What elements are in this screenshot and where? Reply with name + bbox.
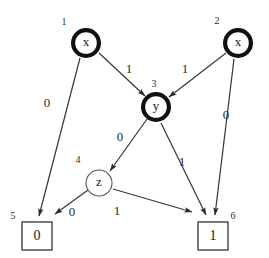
- edge-label: 1: [179, 154, 186, 169]
- node-4-z[interactable]: z4: [76, 154, 113, 196]
- terminal-6-1[interactable]: 16: [198, 210, 236, 250]
- node-3-y[interactable]: y3: [143, 78, 169, 120]
- edge-n2-t6: [215, 59, 234, 215]
- node-2-x[interactable]: x2: [215, 15, 251, 56]
- node-variable-label: y: [153, 98, 160, 113]
- edge-n4-t6: [113, 189, 192, 212]
- node-1-x[interactable]: x1: [62, 16, 99, 56]
- edges-layer: [39, 53, 234, 216]
- edge-label: 0: [69, 204, 76, 219]
- edge-n3-n4: [110, 119, 147, 171]
- nodes-layer: x1x2y3z4: [62, 15, 251, 196]
- edge-n2-n3: [169, 53, 226, 97]
- node-index-label: 3: [152, 78, 157, 89]
- terminal-5-0[interactable]: 05: [11, 210, 53, 250]
- decision-diagram: 01100101 x1x2y3z4 0516: [0, 0, 269, 258]
- terminal-index-label: 5: [11, 210, 16, 221]
- terminals-layer: 0516: [11, 210, 236, 250]
- node-variable-label: z: [96, 174, 102, 189]
- node-variable-label: x: [83, 34, 90, 49]
- edge-label: 1: [114, 203, 121, 218]
- diagram-canvas: 01100101 x1x2y3z4 0516: [0, 0, 269, 258]
- node-index-label: 2: [215, 15, 220, 26]
- edge-label: 1: [126, 61, 133, 76]
- node-index-label: 4: [76, 154, 81, 165]
- terminal-index-label: 6: [231, 210, 236, 221]
- edge-label: 0: [117, 129, 124, 144]
- edge-n1-t5: [39, 58, 80, 216]
- edge-n1-n3: [99, 53, 145, 96]
- edge-label: 1: [182, 61, 189, 76]
- edge-label: 0: [44, 95, 51, 110]
- terminal-value-label: 1: [210, 228, 217, 243]
- edge-n3-t6: [161, 123, 206, 215]
- terminal-value-label: 0: [34, 228, 41, 243]
- node-index-label: 1: [62, 16, 67, 27]
- edge-label: 0: [223, 107, 230, 122]
- node-variable-label: x: [235, 34, 242, 49]
